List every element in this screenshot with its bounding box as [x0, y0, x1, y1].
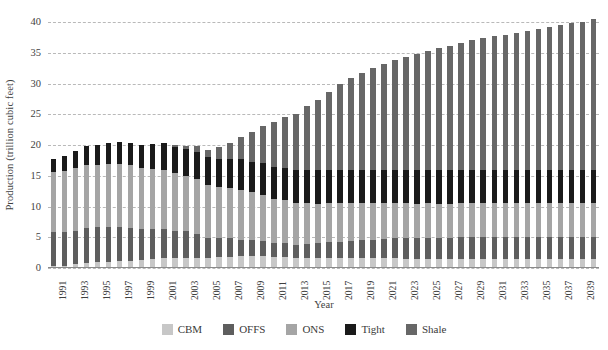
- bar-segment-ons: [337, 203, 343, 242]
- legend-item-shale[interactable]: Shale: [406, 324, 446, 335]
- bar[interactable]: [84, 147, 90, 268]
- bar-segment-tight: [304, 169, 310, 203]
- bar-segment-shale: [403, 57, 409, 170]
- bar[interactable]: [591, 20, 597, 268]
- bar-segment-shale: [194, 146, 200, 151]
- legend-item-offs[interactable]: OFFS: [223, 324, 265, 335]
- bar[interactable]: [480, 39, 486, 268]
- y-tick-label: 10: [3, 202, 47, 213]
- bar[interactable]: [569, 24, 575, 268]
- bar[interactable]: [580, 22, 586, 268]
- bar[interactable]: [161, 143, 167, 268]
- y-tick-label: 15: [3, 171, 47, 182]
- bar-segment-ons: [161, 169, 167, 228]
- x-tick-label: 2007: [234, 281, 244, 300]
- x-tick-label: 2035: [542, 281, 552, 300]
- bar-segment-shale: [337, 84, 343, 170]
- legend-item-cbm[interactable]: CBM: [162, 324, 202, 335]
- bar[interactable]: [458, 43, 464, 268]
- bar[interactable]: [139, 145, 145, 268]
- bar-segment-shale: [558, 25, 564, 169]
- bar[interactable]: [315, 101, 321, 268]
- bar-segment-offs: [271, 242, 277, 257]
- bar-segment-shale: [370, 68, 376, 169]
- bar[interactable]: [150, 144, 156, 268]
- bar-segment-shale: [271, 122, 277, 167]
- bar[interactable]: [117, 143, 123, 268]
- x-tick-label: 2023: [410, 281, 420, 300]
- bar-segment-offs: [84, 228, 90, 263]
- bar[interactable]: [249, 132, 255, 268]
- bar[interactable]: [304, 107, 310, 268]
- bar[interactable]: [51, 159, 57, 268]
- bar[interactable]: [525, 31, 531, 268]
- bar-segment-shale: [458, 43, 464, 170]
- bar-segment-offs: [425, 237, 431, 258]
- bar-segment-shale: [238, 137, 244, 160]
- bar-segment-ons: [569, 203, 575, 237]
- bar[interactable]: [514, 33, 520, 268]
- bar[interactable]: [282, 117, 288, 268]
- y-tick-label: 0: [3, 263, 47, 274]
- x-tick-label: 2003: [190, 281, 200, 300]
- x-tick-label: 1995: [102, 281, 112, 300]
- bar[interactable]: [238, 137, 244, 268]
- bar[interactable]: [205, 150, 211, 268]
- bar[interactable]: [447, 46, 453, 268]
- bar-segment-ons: [205, 185, 211, 238]
- bar-segment-offs: [315, 243, 321, 258]
- bar-segment-tight: [205, 157, 211, 185]
- bar[interactable]: [227, 143, 233, 268]
- bar-segment-offs: [503, 237, 509, 259]
- bar[interactable]: [503, 35, 509, 268]
- bar-segment-ons: [282, 200, 288, 243]
- bar[interactable]: [106, 144, 112, 268]
- y-tick-label: 20: [3, 140, 47, 151]
- bar-segment-ons: [172, 173, 178, 231]
- legend-item-ons[interactable]: ONS: [286, 324, 324, 335]
- bar-segment-offs: [480, 237, 486, 259]
- bar-segment-tight: [95, 145, 101, 164]
- legend-item-tight[interactable]: Tight: [345, 324, 384, 335]
- bar[interactable]: [348, 78, 354, 268]
- bar[interactable]: [436, 48, 442, 268]
- bar-segment-offs: [458, 237, 464, 259]
- bar-segment-shale: [205, 150, 211, 158]
- bar-segment-ons: [458, 203, 464, 237]
- bar-segment-tight: [381, 169, 387, 203]
- x-tick-label: 1999: [146, 281, 156, 300]
- bar[interactable]: [194, 147, 200, 268]
- bar[interactable]: [271, 122, 277, 268]
- bar[interactable]: [326, 92, 332, 268]
- bar[interactable]: [536, 29, 542, 268]
- bar-segment-offs: [436, 237, 442, 258]
- bar[interactable]: [216, 147, 222, 268]
- bar[interactable]: [172, 145, 178, 268]
- bar[interactable]: [95, 146, 101, 268]
- bar[interactable]: [183, 146, 189, 268]
- bar[interactable]: [293, 114, 299, 268]
- bar-segment-shale: [348, 78, 354, 170]
- bar[interactable]: [414, 55, 420, 268]
- bar[interactable]: [370, 69, 376, 268]
- bar[interactable]: [337, 84, 343, 268]
- x-tick-label: 2021: [388, 281, 398, 300]
- bar[interactable]: [392, 60, 398, 268]
- bar-segment-shale: [227, 143, 233, 159]
- bar[interactable]: [359, 73, 365, 268]
- bar[interactable]: [62, 157, 68, 268]
- bar[interactable]: [260, 127, 266, 268]
- bar[interactable]: [547, 28, 553, 268]
- bar[interactable]: [381, 64, 387, 268]
- bar[interactable]: [469, 40, 475, 268]
- bar-segment-tight: [480, 169, 486, 203]
- bar[interactable]: [492, 37, 498, 268]
- bar[interactable]: [403, 57, 409, 268]
- bar-segment-offs: [469, 237, 475, 259]
- bar[interactable]: [73, 152, 79, 268]
- bar[interactable]: [425, 51, 431, 268]
- bar[interactable]: [128, 143, 134, 268]
- x-tick-label: 2005: [212, 281, 222, 300]
- bar[interactable]: [558, 26, 564, 268]
- bar-segment-tight: [326, 169, 332, 203]
